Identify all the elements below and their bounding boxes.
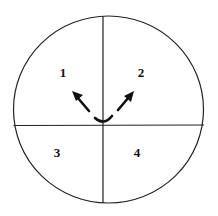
arrow-up-right-icon — [118, 91, 134, 110]
quadrant-label-3: 3 — [54, 145, 61, 160]
horizontal-divider — [14, 125, 205, 126]
outer-circle — [14, 16, 204, 203]
quadrant-label-2: 2 — [138, 65, 145, 80]
arrow-up-left-icon — [72, 91, 89, 111]
quadrant-label-1: 1 — [60, 65, 67, 80]
quadrant-label-4: 4 — [134, 145, 141, 160]
quadrant-diagram: 1 2 3 4 — [0, 0, 218, 216]
